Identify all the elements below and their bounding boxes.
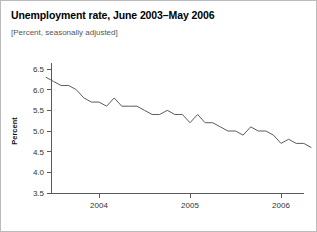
y-axis: 3.54.04.55.05.56.06.5: [33, 63, 51, 198]
series-line: [46, 77, 311, 147]
page-title: Unemployment rate, June 2003–May 2006: [11, 9, 214, 21]
chart-figure: Unemployment rate, June 2003–May 2006 [P…: [0, 0, 317, 232]
y-tick-label: 6.0: [33, 86, 45, 95]
x-tick-label: 2006: [272, 201, 290, 210]
y-tick-label: 6.5: [33, 65, 45, 74]
chart-subtitle: [Percent, seasonally adjusted]: [11, 28, 118, 37]
series-unemployment-rate: [46, 77, 311, 147]
y-axis-title: Percent: [10, 117, 19, 145]
y-tick-label: 5.0: [33, 127, 45, 136]
plot-area: 3.54.04.55.05.56.06.5 200420052006 Perce…: [1, 53, 316, 231]
x-tick-label: 2005: [181, 201, 199, 210]
line-chart: 3.54.04.55.05.56.06.5 200420052006 Perce…: [1, 53, 316, 231]
y-tick-label: 5.5: [33, 106, 45, 115]
x-axis: 200420052006: [51, 193, 304, 210]
y-tick-label: 4.0: [33, 168, 45, 177]
x-tick-label: 2004: [90, 201, 108, 210]
y-tick-label: 4.5: [33, 148, 45, 157]
y-tick-label: 3.5: [33, 189, 45, 198]
